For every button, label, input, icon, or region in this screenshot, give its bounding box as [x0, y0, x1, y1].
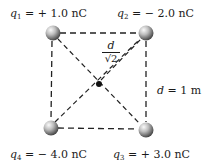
charge-symbol: q	[10, 148, 17, 161]
charge-label-q3: q3 = + 3.0 nC	[113, 149, 190, 164]
charge-symbol: q	[10, 7, 17, 20]
diagonal-q4-q2	[55, 39, 140, 122]
charge-symbol: q	[117, 7, 124, 20]
charge-sphere-q1-icon	[46, 26, 61, 41]
charge-value: = + 3.0 nC	[128, 148, 190, 161]
side-length-label: d = 1 m	[157, 85, 201, 97]
charge-value: = − 4.0 nC	[25, 148, 87, 161]
charge-sphere-q2-icon	[139, 26, 154, 41]
charge-subscript: 2	[124, 13, 128, 21]
fraction-denominator: √2	[102, 53, 120, 64]
charge-sphere-q4-icon	[44, 121, 59, 136]
side-value: = 1 m	[168, 84, 202, 97]
charge-label-q2: q2 = − 2.0 nC	[117, 8, 194, 23]
side-left	[51, 41, 52, 120]
charge-subscript: 4	[17, 154, 21, 162]
charge-symbol: q	[113, 148, 120, 161]
charge-value: = + 1.0 nC	[25, 7, 87, 20]
diagram-lines	[0, 0, 206, 166]
center-point-icon	[96, 81, 102, 87]
charge-subscript: 1	[17, 13, 21, 21]
charge-label-q4: q4 = − 4.0 nC	[10, 149, 87, 164]
charge-label-q1: q1 = + 1.0 nC	[10, 8, 87, 23]
charge-subscript: 3	[120, 154, 124, 162]
side-variable: d	[157, 84, 164, 97]
charge-sphere-q3-icon	[139, 123, 154, 138]
half-diagonal-label: d √2	[102, 40, 120, 64]
charge-value: = − 2.0 nC	[132, 7, 194, 20]
fraction-numerator: d	[102, 40, 120, 53]
side-bottom	[58, 128, 138, 129]
square-charge-diagram: q1 = + 1.0 nC q2 = − 2.0 nC q3 = + 3.0 n…	[0, 0, 206, 166]
